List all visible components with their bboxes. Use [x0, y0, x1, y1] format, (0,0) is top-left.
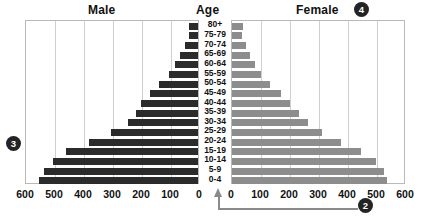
callout-marker-3: 3	[6, 136, 21, 151]
age-group-label-55-59: 55-59	[199, 69, 231, 78]
bar-row-male	[26, 147, 198, 156]
x-tick-female-0: 0	[216, 188, 246, 200]
age-group-label-15-19: 15-19	[199, 146, 231, 155]
x-tick-male-500: 500	[39, 188, 69, 200]
bar-female-10-14	[232, 158, 376, 165]
callout-2-leader-line	[218, 208, 358, 210]
bar-male-80+	[189, 23, 198, 30]
bar-row-male	[26, 21, 198, 30]
bar-row-male	[26, 176, 198, 185]
population-pyramid-figure: Male Age Female 80+75-7970-7465-6960-645…	[0, 0, 422, 216]
bar-female-40-44	[232, 100, 290, 107]
x-tick-female-400: 400	[332, 188, 362, 200]
callout-marker-4: 4	[354, 2, 369, 17]
bar-row-male	[26, 118, 198, 127]
x-tick-male-300: 300	[97, 188, 127, 200]
bar-row-female	[232, 147, 404, 156]
bar-row-female	[232, 41, 404, 50]
bar-row-female	[232, 137, 404, 146]
bar-row-male	[26, 99, 198, 108]
bar-row-male	[26, 156, 198, 165]
age-group-label-30-34: 30-34	[199, 117, 231, 126]
bar-male-70-74	[185, 42, 198, 49]
bar-row-male	[26, 89, 198, 98]
bar-female-65-69	[232, 52, 250, 59]
bar-male-35-39	[136, 110, 198, 117]
bar-male-55-59	[169, 71, 198, 78]
bar-row-female	[232, 89, 404, 98]
age-group-label-35-39: 35-39	[199, 107, 231, 116]
x-tick-male-600: 600	[10, 188, 40, 200]
bar-female-35-39	[232, 110, 299, 117]
age-group-label-25-29: 25-29	[199, 126, 231, 135]
age-group-label-40-44: 40-44	[199, 98, 231, 107]
bar-row-female	[232, 176, 404, 185]
bar-row-female	[232, 127, 404, 136]
bar-male-0-4	[39, 177, 199, 184]
x-tick-male-200: 200	[126, 188, 156, 200]
age-label-column: 80+75-7970-7465-6960-6455-5950-5445-4940…	[199, 20, 231, 184]
bar-row-male	[26, 50, 198, 59]
bar-female-20-24	[232, 139, 341, 146]
age-group-label-20-24: 20-24	[199, 136, 231, 145]
bar-female-0-4	[232, 177, 387, 184]
bar-row-male	[26, 70, 198, 79]
age-group-label-10-14: 10-14	[199, 155, 231, 164]
bar-female-50-54	[232, 81, 270, 88]
age-group-label-75-79: 75-79	[199, 30, 231, 39]
bar-male-5-9	[44, 168, 198, 175]
bar-male-10-14	[53, 158, 198, 165]
age-group-label-0-4: 0-4	[199, 175, 231, 184]
age-group-label-5-9: 5-9	[199, 165, 231, 174]
age-group-label-60-64: 60-64	[199, 59, 231, 68]
bar-male-50-54	[159, 81, 198, 88]
bar-row-female	[232, 60, 404, 69]
age-group-label-70-74: 70-74	[199, 40, 231, 49]
bar-row-female	[232, 156, 404, 165]
bar-row-female	[232, 99, 404, 108]
x-tick-male-0: 0	[184, 188, 214, 200]
plot-area-male	[25, 20, 199, 184]
bar-row-male	[26, 31, 198, 40]
bar-male-20-24	[89, 139, 198, 146]
bar-row-male	[26, 127, 198, 136]
x-tick-female-200: 200	[274, 188, 304, 200]
bar-female-15-19	[232, 148, 361, 155]
bar-row-male	[26, 60, 198, 69]
bar-male-65-69	[180, 52, 198, 59]
bar-female-30-34	[232, 119, 308, 126]
bar-row-male	[26, 41, 198, 50]
bar-female-70-74	[232, 42, 246, 49]
bar-row-female	[232, 118, 404, 127]
bar-male-60-64	[175, 61, 198, 68]
bar-row-female	[232, 166, 404, 175]
bar-row-female	[232, 50, 404, 59]
bar-male-40-44	[141, 100, 198, 107]
age-group-label-80+: 80+	[199, 20, 231, 29]
bar-male-30-34	[128, 119, 198, 126]
column-header-male: Male	[88, 3, 115, 17]
bar-male-15-19	[66, 148, 198, 155]
x-tick-female-600: 600	[390, 188, 420, 200]
bar-female-60-64	[232, 61, 255, 68]
plot-area-female	[231, 20, 405, 184]
age-group-label-45-49: 45-49	[199, 88, 231, 97]
bar-row-male	[26, 108, 198, 117]
bar-female-75-79	[232, 32, 242, 39]
bar-row-male	[26, 166, 198, 175]
x-tick-female-300: 300	[303, 188, 333, 200]
bar-female-25-29	[232, 129, 322, 136]
bar-female-45-49	[232, 90, 281, 97]
bar-row-male	[26, 79, 198, 88]
bar-female-80+	[232, 23, 243, 30]
bar-row-female	[232, 31, 404, 40]
bar-male-75-79	[189, 32, 198, 39]
bar-row-female	[232, 70, 404, 79]
bar-female-55-59	[232, 71, 261, 78]
bar-female-5-9	[232, 168, 384, 175]
callout-marker-2: 2	[358, 198, 373, 213]
bar-male-45-49	[150, 90, 198, 97]
bar-male-25-29	[111, 129, 198, 136]
bar-row-female	[232, 79, 404, 88]
x-tick-male-400: 400	[68, 188, 98, 200]
